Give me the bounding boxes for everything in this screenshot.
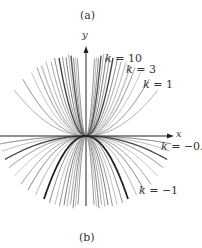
panel-label-b: (b) [79,232,95,243]
annotation-k-neg-0-1: k = −0.1 [161,141,202,152]
y-axis-label: y [82,30,88,40]
y-axis-arrow-icon [84,46,89,53]
parabola-family-plot [0,0,202,248]
annotation-k-3: k = 3 [126,64,156,75]
annotation-k-1: k = 1 [143,79,173,90]
annotation-k-neg-1: k = −1 [139,185,178,196]
x-axis-arrow-icon [167,134,174,139]
panel-label-a: (a) [80,10,95,21]
x-axis-label: x [176,129,182,139]
